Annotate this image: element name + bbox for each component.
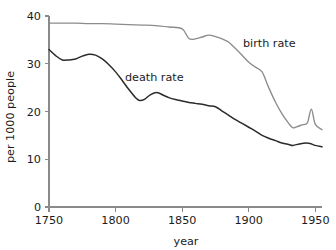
x-tick-label: 1900 xyxy=(235,214,263,227)
line-chart-svg: 01020304017501800185019001950 year per 1… xyxy=(0,0,336,250)
x-tick-label: 1750 xyxy=(35,214,63,227)
x-axis-title: year xyxy=(174,235,199,248)
series-label-birth-rate: birth rate xyxy=(243,37,296,50)
x-tick-label: 1950 xyxy=(301,214,329,227)
y-axis-title: per 1000 people xyxy=(4,71,17,163)
chart-container: 01020304017501800185019001950 year per 1… xyxy=(0,0,336,250)
series-line-death-rate xyxy=(49,49,322,146)
y-tick-label: 10 xyxy=(27,153,41,166)
x-tick-label: 1850 xyxy=(168,214,196,227)
y-tick-label: 40 xyxy=(27,10,41,23)
y-tick-label: 30 xyxy=(27,58,41,71)
series-label-death-rate: death rate xyxy=(125,71,184,84)
y-tick-label: 20 xyxy=(27,106,41,119)
y-tick-label: 0 xyxy=(34,201,41,214)
x-tick-label: 1800 xyxy=(101,214,129,227)
